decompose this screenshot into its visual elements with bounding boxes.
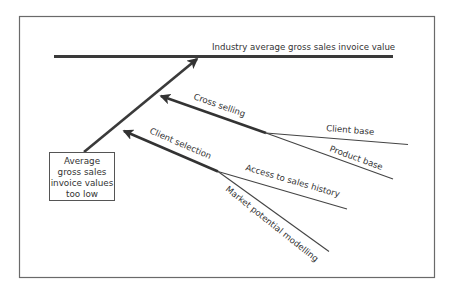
fishbone-diagram: Industry average gross sales invoice val… <box>0 0 452 294</box>
effect-line-1: Average <box>64 156 100 166</box>
effect-line-4: too low <box>66 189 98 199</box>
effect-line-2: gross sales <box>58 167 107 177</box>
effect-box: Average gross sales invoice values too l… <box>50 153 115 201</box>
target-label: Industry average gross sales invoice val… <box>212 42 395 52</box>
effect-line-3: invoice values <box>51 178 114 188</box>
